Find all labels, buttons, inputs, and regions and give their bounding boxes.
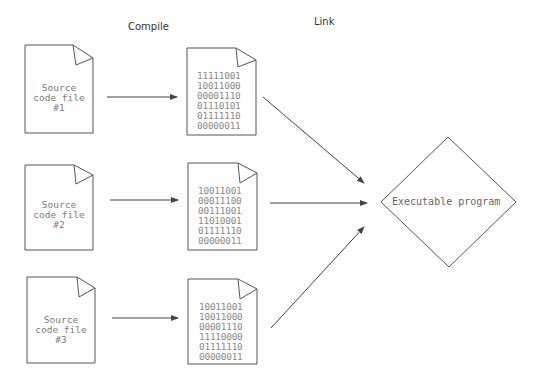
- link-arrow-1: [263, 97, 364, 183]
- object-file-binary-3: 10011001 10011000 00001110 11110000 0111…: [199, 302, 243, 362]
- compile-header: Compile: [128, 21, 169, 32]
- source-file-label-2: Source code file #2: [25, 200, 93, 230]
- object-file-binary-2: 10011001 00011100 00111001 11010001 0111…: [198, 186, 242, 246]
- link-header: Link: [314, 16, 334, 27]
- compile-link-diagram: Compile Link Source code file #1 Source …: [0, 0, 534, 381]
- object-file-binary-1: 11111001 10011000 00001110 01110101 0111…: [197, 71, 241, 131]
- source-file-label-3: Source code file #3: [27, 315, 95, 345]
- executable-program-label: Executable program: [392, 196, 500, 207]
- link-arrow-3: [271, 227, 364, 328]
- source-file-label-1: Source code file #1: [25, 83, 93, 113]
